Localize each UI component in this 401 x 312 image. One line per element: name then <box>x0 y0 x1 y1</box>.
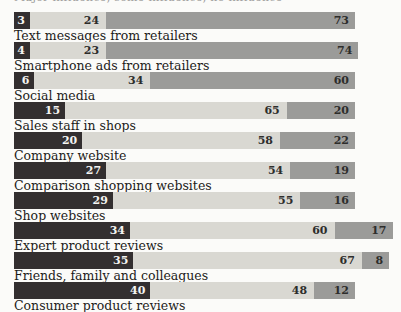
segment-dark-value: 35 <box>113 252 128 269</box>
category-label: Smartphone ads from retailers <box>14 59 401 72</box>
segment-light-value: 23 <box>84 42 99 59</box>
segment-dark: 15 <box>14 102 65 119</box>
segment-dark-value: 27 <box>86 162 101 179</box>
stacked-bar: 3 24 73 <box>14 12 401 29</box>
stacked-bar: 27 54 19 <box>14 162 401 179</box>
bar-row: 27 54 19 Comparison shopping websites <box>0 162 401 192</box>
segment-gray: 60 <box>150 72 355 89</box>
segment-light-value: 58 <box>258 132 273 149</box>
segment-dark-value: 34 <box>110 222 125 239</box>
segment-dark-value: 29 <box>93 192 108 209</box>
segment-gray-value: 8 <box>375 252 383 269</box>
segment-gray: 16 <box>300 192 355 209</box>
clipped-header: Major influence, some influence, no infl… <box>14 0 401 12</box>
segment-light: 55 <box>113 192 301 209</box>
segment-dark-value: 4 <box>17 42 25 59</box>
segment-light: 65 <box>65 102 287 119</box>
category-label: Friends, family and colleagues <box>14 269 401 282</box>
bar-row: 15 65 20 Sales staff in shops <box>0 102 401 132</box>
segment-dark: 40 <box>14 282 150 299</box>
bar-row: 29 55 16 Shop websites <box>0 192 401 222</box>
stacked-bar: 6 34 60 <box>14 72 401 89</box>
clipped-header-text: Major influence, some influence, no infl… <box>14 0 401 4</box>
bar-row: 4 23 74 Smartphone ads from retailers <box>0 42 401 72</box>
segment-light-value: 55 <box>278 192 293 209</box>
segment-light-value: 54 <box>268 162 283 179</box>
segment-light-value: 60 <box>312 222 327 239</box>
segment-dark: 20 <box>14 132 82 149</box>
bar-row: 34 60 17 Expert product reviews <box>0 222 401 252</box>
segment-gray-value: 22 <box>334 132 349 149</box>
segment-light: 48 <box>150 282 314 299</box>
segment-gray-value: 19 <box>334 162 349 179</box>
segment-light: 60 <box>130 222 335 239</box>
category-label: Expert product reviews <box>14 239 401 252</box>
segment-dark: 29 <box>14 192 113 209</box>
category-label: Sales staff in shops <box>14 119 401 132</box>
bar-row: 3 24 73 Text messages from retailers <box>0 12 401 42</box>
segment-light: 24 <box>30 12 106 29</box>
category-label: Comparison shopping websites <box>14 179 401 192</box>
segment-dark-value: 6 <box>22 72 30 89</box>
chart-rows: 3 24 73 Text messages from retailers 4 2… <box>0 12 401 312</box>
segment-gray-value: 20 <box>334 102 349 119</box>
segment-gray: 8 <box>362 252 389 269</box>
segment-dark: 35 <box>14 252 133 269</box>
stacked-bar: 4 23 74 <box>14 42 401 59</box>
stacked-bar: 29 55 16 <box>14 192 401 209</box>
stacked-bar: 34 60 17 <box>14 222 401 239</box>
segment-gray: 73 <box>106 12 355 29</box>
bar-row: 40 48 12 Consumer product reviews <box>0 282 401 312</box>
category-label: Shop websites <box>14 209 401 222</box>
segment-gray-value: 16 <box>334 192 349 209</box>
segment-gray-value: 74 <box>337 42 352 59</box>
segment-gray: 22 <box>280 132 355 149</box>
segment-dark: 27 <box>14 162 106 179</box>
stacked-bar: 35 67 8 <box>14 252 401 269</box>
segment-dark: 34 <box>14 222 130 239</box>
stacked-bar: 20 58 22 <box>14 132 401 149</box>
segment-light: 67 <box>133 252 361 269</box>
segment-light-value: 65 <box>264 102 279 119</box>
segment-gray: 19 <box>290 162 355 179</box>
segment-light: 54 <box>106 162 290 179</box>
segment-dark-value: 15 <box>45 102 60 119</box>
segment-gray: 12 <box>314 282 355 299</box>
segment-gray-value: 73 <box>334 12 349 29</box>
segment-dark: 6 <box>14 72 34 89</box>
segment-light-value: 67 <box>340 252 355 269</box>
bar-row: 20 58 22 Company website <box>0 132 401 162</box>
segment-dark-value: 3 <box>17 12 25 29</box>
segment-light-value: 48 <box>292 282 307 299</box>
stacked-bar: 40 48 12 <box>14 282 401 299</box>
segment-gray: 74 <box>106 42 358 59</box>
segment-dark-value: 20 <box>62 132 77 149</box>
segment-gray-value: 60 <box>334 72 349 89</box>
segment-dark: 4 <box>14 42 30 59</box>
segment-gray: 20 <box>287 102 355 119</box>
stacked-bar-chart: Major influence, some influence, no infl… <box>0 0 401 312</box>
category-label: Consumer product reviews <box>14 299 401 312</box>
segment-gray-value: 12 <box>334 282 349 299</box>
segment-light: 23 <box>30 42 106 59</box>
category-label: Company website <box>14 149 401 162</box>
stacked-bar: 15 65 20 <box>14 102 401 119</box>
category-label: Text messages from retailers <box>14 29 401 42</box>
segment-gray-value: 17 <box>371 222 386 239</box>
segment-light: 58 <box>82 132 280 149</box>
segment-light: 34 <box>34 72 150 89</box>
segment-light-value: 24 <box>84 12 99 29</box>
bar-row: 6 34 60 Social media <box>0 72 401 102</box>
bar-row: 35 67 8 Friends, family and colleagues <box>0 252 401 282</box>
segment-dark: 3 <box>14 12 30 29</box>
segment-gray: 17 <box>335 222 393 239</box>
segment-light-value: 34 <box>128 72 143 89</box>
segment-dark-value: 40 <box>130 282 145 299</box>
category-label: Social media <box>14 89 401 102</box>
